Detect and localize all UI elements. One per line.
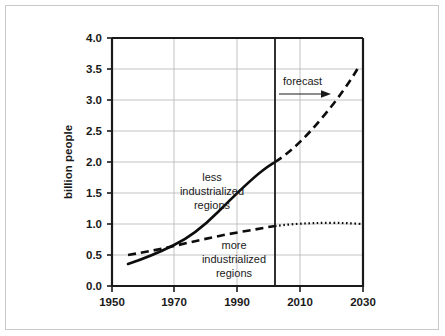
series-more-industrialized-forecast	[275, 223, 363, 226]
more-industrialized-label-line: regions	[216, 267, 253, 279]
less-industrialized-label: less industrialized regions	[180, 171, 244, 211]
x-tick-label: 2010	[287, 296, 313, 308]
y-tick-label: 0.0	[86, 280, 102, 292]
more-industrialized-label-line: industrialized	[202, 253, 266, 265]
less-industrialized-label-line: less	[202, 171, 222, 183]
x-tick-labels: 1950 1970 1990 2010 2030	[99, 296, 376, 308]
forecast-arrow	[279, 90, 331, 98]
y-tick-label: 3.5	[86, 63, 103, 75]
y-tick-label: 4.0	[86, 32, 102, 44]
y-tick-label: 2.0	[86, 156, 102, 168]
x-tick-label: 1990	[224, 296, 250, 308]
less-industrialized-label-line: regions	[194, 199, 231, 211]
forecast-label: forecast	[283, 75, 322, 87]
horizontal-gridlines	[112, 69, 363, 255]
y-tick-label: 1.0	[86, 218, 102, 230]
less-industrialized-label-line: industrialized	[180, 185, 244, 197]
y-axis-title: billion people	[62, 125, 74, 199]
forecast-arrow-head	[321, 90, 331, 98]
y-tick-label: 3.0	[86, 94, 102, 106]
x-tick-label: 1950	[99, 296, 125, 308]
figure-frame: 4.0 3.5 3.0 2.5 2.0 1.5 1.0 0.5 0.0 1950…	[5, 5, 439, 330]
more-industrialized-label: more industrialized regions	[202, 239, 266, 279]
y-tick-label: 1.5	[86, 187, 103, 199]
x-tick-label: 1970	[161, 296, 187, 308]
x-tick-label: 2030	[350, 296, 376, 308]
more-industrialized-label-line: more	[221, 239, 246, 251]
y-tick-labels: 4.0 3.5 3.0 2.5 2.0 1.5 1.0 0.5 0.0	[86, 32, 103, 292]
data-series	[128, 68, 363, 264]
population-growth-line-chart: 4.0 3.5 3.0 2.5 2.0 1.5 1.0 0.5 0.0 1950…	[6, 6, 440, 331]
y-tick-label: 2.5	[86, 125, 103, 137]
series-more-industrialized-historical	[128, 226, 275, 255]
y-tick-label: 0.5	[86, 249, 103, 261]
